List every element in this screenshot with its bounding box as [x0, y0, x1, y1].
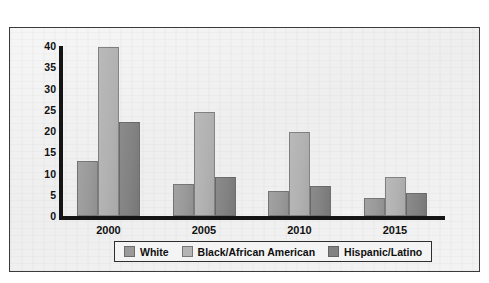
bar [289, 132, 310, 216]
bar [119, 122, 140, 216]
bar [268, 191, 289, 217]
figure-frame: 4035302520151050 2000200520102015 WhiteB… [9, 27, 480, 272]
y-axis-tick-label: 40 [34, 41, 56, 52]
bars-layer [63, 46, 445, 216]
bar [385, 177, 406, 216]
bar [77, 161, 98, 216]
bar [98, 47, 119, 216]
x-axis-tick-label: 2005 [169, 224, 239, 236]
y-axis-tick-label: 30 [34, 84, 56, 95]
bar [406, 193, 427, 216]
y-axis-tick-labels: 4035302520151050 [30, 28, 56, 273]
legend-item: Hispanic/Latino [328, 246, 422, 258]
bar-group [77, 46, 140, 216]
x-axis-line [59, 216, 445, 220]
bar-chart-plot-area: 4035302520151050 2000200520102015 [10, 28, 481, 273]
bar-group [364, 46, 427, 216]
x-axis-tick-label: 2015 [360, 224, 430, 236]
y-axis-tick-label: 25 [34, 105, 56, 116]
y-axis-tick-label: 10 [34, 169, 56, 180]
legend-label: Black/African American [198, 246, 316, 258]
y-axis-tick-label: 20 [34, 126, 56, 137]
chart-legend: WhiteBlack/African AmericanHispanic/Lati… [114, 241, 432, 262]
legend-swatch [182, 246, 193, 257]
legend-swatch [124, 246, 135, 257]
bar-group [268, 46, 331, 216]
legend-item: White [124, 246, 169, 258]
bar [194, 112, 215, 216]
x-axis-tick-label: 2010 [265, 224, 335, 236]
y-axis-tick-label: 15 [34, 147, 56, 158]
bar-group [173, 46, 236, 216]
y-axis-tick-label: 5 [34, 190, 56, 201]
bar [364, 198, 385, 216]
legend-swatch [328, 246, 339, 257]
bar [173, 184, 194, 216]
legend-label: White [140, 246, 169, 258]
y-axis-tick-label: 35 [34, 62, 56, 73]
y-axis-tick-label: 0 [34, 211, 56, 222]
legend-label: Hispanic/Latino [344, 246, 422, 258]
x-axis-tick-label: 2000 [74, 224, 144, 236]
bar [215, 177, 236, 216]
legend-item: Black/African American [182, 246, 316, 258]
bar [310, 186, 331, 216]
